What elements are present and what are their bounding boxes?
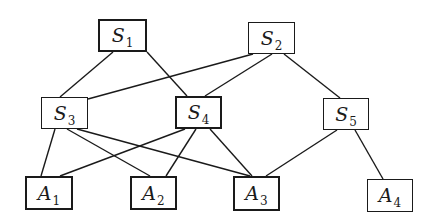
hierarchy-diagram: S1 S2 S3 S4 S5 A1 A2 A3 A4 xyxy=(0,0,434,224)
node-label: A2 xyxy=(142,184,164,203)
node-label: S5 xyxy=(335,105,357,124)
node-letter: S xyxy=(335,103,348,125)
node-letter: S xyxy=(54,102,67,124)
node-subscript: 4 xyxy=(394,196,402,210)
edge-s5-a4 xyxy=(355,130,383,179)
node-s4: S4 xyxy=(175,96,222,129)
node-a3: A3 xyxy=(233,176,280,211)
edge-s5-a3 xyxy=(266,130,337,176)
node-letter: S xyxy=(261,27,274,49)
node-a2: A2 xyxy=(130,176,177,210)
node-label: A3 xyxy=(245,184,267,203)
node-subscript: 3 xyxy=(68,114,76,128)
node-label: A1 xyxy=(38,184,60,203)
node-subscript: 5 xyxy=(349,115,357,129)
edge-s2-s3 xyxy=(88,54,253,99)
node-label: S3 xyxy=(54,104,76,123)
node-letter: S xyxy=(112,24,125,46)
node-subscript: 1 xyxy=(126,36,134,50)
node-s2: S2 xyxy=(248,22,295,54)
node-s3: S3 xyxy=(41,97,88,129)
node-a1: A1 xyxy=(25,176,73,210)
node-subscript: 4 xyxy=(202,113,210,127)
node-subscript: 1 xyxy=(53,194,61,208)
node-letter: S xyxy=(188,101,201,123)
node-label: S2 xyxy=(261,29,283,48)
edge-s3-a1 xyxy=(41,129,55,176)
node-letter: A xyxy=(38,182,52,204)
edge-s4-a2 xyxy=(166,129,196,176)
node-label: S4 xyxy=(188,103,210,122)
node-subscript: 2 xyxy=(157,194,165,208)
edge-s2-s5 xyxy=(284,54,340,98)
node-letter: A xyxy=(379,184,393,206)
edge-s2-s4 xyxy=(205,54,272,96)
edge-s1-s3 xyxy=(60,52,113,97)
edge-s3-a3 xyxy=(77,129,250,176)
node-letter: A xyxy=(245,182,259,204)
node-subscript: 3 xyxy=(260,194,268,208)
node-a4: A4 xyxy=(367,179,413,212)
node-label: S1 xyxy=(112,26,134,45)
node-label: A4 xyxy=(379,186,401,205)
node-letter: A xyxy=(142,182,156,204)
node-s1: S1 xyxy=(98,19,147,52)
node-s5: S5 xyxy=(323,98,369,130)
edge-s4-a3 xyxy=(210,129,252,176)
node-subscript: 2 xyxy=(275,39,283,53)
